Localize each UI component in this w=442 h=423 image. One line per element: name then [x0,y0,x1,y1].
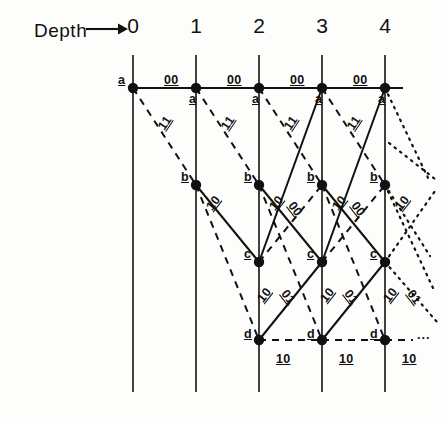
node-b-2 [254,180,264,190]
depth-tick-3: 3 [316,14,328,38]
state-label-b-0: b [181,170,189,184]
cont-a-b [385,88,430,182]
node-c-2 [254,257,264,267]
node-c-3 [317,257,327,267]
node-c-4 [380,257,390,267]
state-label-b-3: b [370,170,378,184]
node-b-4 [380,180,390,190]
state-label-b-1: b [244,170,252,184]
state-label-d-2: d [370,327,378,341]
state-label-a-1: a [189,92,196,106]
cont-b-c [385,185,430,256]
node-d-4 [380,335,390,345]
state-label-a-2: a [252,92,259,106]
depth-tick-2: 2 [253,14,265,38]
state-label-a-0: a [118,73,125,87]
node-a-0 [128,83,138,93]
node-b-1 [191,180,201,190]
depth-axis-label: Depth [34,20,87,42]
output-label-dd-0: 10 [276,352,291,366]
cont-upper-right [389,143,435,179]
depth-tick-0: 0 [127,14,139,38]
trellis-svg [0,0,442,423]
output-label-aa-1: 00 [227,73,242,87]
output-label-aa-3: 00 [353,73,368,87]
state-label-a-3: a [315,92,322,106]
node-d-2 [254,335,264,345]
state-label-b-2: b [307,170,315,184]
state-label-c-2: c [370,247,377,261]
output-label-aa-0: 00 [164,73,179,87]
state-label-d-0: d [244,327,252,341]
node-b-3 [317,180,327,190]
output-label-dd-2: 10 [402,352,417,366]
state-label-c-0: c [244,247,251,261]
depth-tick-4: 4 [379,14,391,38]
state-label-c-1: c [307,247,314,261]
continuation-ellipsis: ··· [417,331,430,345]
state-label-a-4: a [378,92,385,106]
output-label-dd-1: 10 [339,352,354,366]
branch-b-d-1 [196,185,259,340]
trellis-diagram: Depth 01234 00000000aaaaabbbbcccddd10101… [0,0,442,423]
state-label-d-1: d [307,327,315,341]
depth-tick-1: 1 [190,14,202,38]
node-d-3 [317,335,327,345]
output-label-aa-2: 00 [290,73,305,87]
depth-arrow-icon [86,24,128,35]
